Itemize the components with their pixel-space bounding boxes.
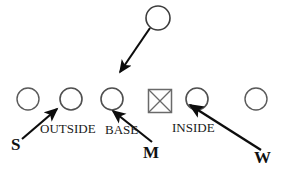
lineman-5-icon — [245, 88, 267, 110]
key-mike-linebacker: M — [143, 144, 159, 161]
lineman-2-icon — [60, 88, 82, 110]
key-will-linebacker: W — [254, 149, 271, 166]
label-outside: OUTSIDE — [40, 122, 96, 135]
deep-defender-path-arrow — [120, 28, 150, 72]
center-square-x-icon — [149, 90, 172, 113]
football-play-diagram: OUTSIDE BASE INSIDE S M W — [0, 0, 289, 176]
label-base: BASE — [105, 123, 138, 136]
lineman-1-icon — [17, 88, 39, 110]
key-strong-safety: S — [11, 136, 20, 153]
deep-defender-icon — [146, 6, 170, 30]
label-inside: INSIDE — [172, 121, 215, 134]
lineman-4-icon — [186, 88, 208, 110]
lineman-3-icon — [101, 88, 123, 110]
offense-row — [17, 88, 267, 113]
deep-defender-group — [120, 6, 170, 72]
